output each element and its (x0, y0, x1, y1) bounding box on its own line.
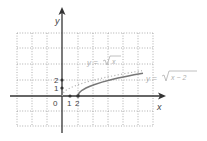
point-y-1 (60, 86, 63, 89)
point-x-2 (76, 94, 80, 98)
curve-sqrt-x-minus-2 (78, 73, 143, 96)
label-sqrt-x-minus-2-prefix: y = (145, 74, 157, 83)
point-x-1 (68, 94, 71, 97)
label-sqrt-x-minus-2-radicand: x − 2 (170, 74, 186, 81)
function-graph: y x 0 1 2 1 2 y = x y = x − 2 (0, 0, 207, 141)
axes (10, 11, 162, 133)
point-y-2 (60, 78, 63, 81)
grid (17, 33, 153, 126)
curve-sqrt-x (62, 71, 142, 96)
y-tick-label-1: 1 (54, 84, 59, 93)
x-tick-label-1: 1 (67, 99, 72, 108)
label-sqrt-x: y = x (86, 56, 121, 67)
graph-canvas: y x 0 1 2 1 2 y = x y = x − 2 (0, 0, 207, 141)
label-sqrt-x-prefix: y = (86, 58, 98, 67)
x-axis-label: x (156, 102, 162, 112)
x-tick-label-2: 2 (75, 99, 80, 108)
label-sqrt-x-radicand: x (111, 58, 116, 65)
y-axis-label: y (54, 16, 60, 26)
origin-label: 0 (53, 99, 58, 108)
y-tick-label-2: 2 (54, 76, 59, 85)
